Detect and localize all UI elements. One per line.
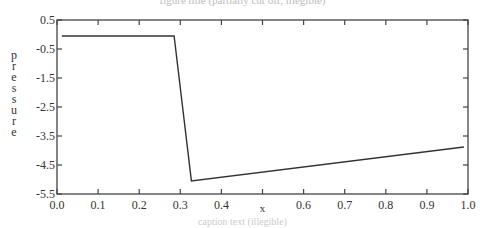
x-tick-label: 0.3 xyxy=(173,198,188,212)
y-tick-label: -2.5 xyxy=(36,100,55,114)
y-tick-label: -5.5 xyxy=(36,187,55,201)
plot-frame xyxy=(57,20,468,194)
y-tick-label: -4.5 xyxy=(36,158,55,172)
x-axis-label: x xyxy=(260,202,266,214)
data-series xyxy=(62,36,464,181)
axes xyxy=(57,20,468,194)
x-tick-label: 1.0 xyxy=(461,198,476,212)
figure-caption: caption text (illegible) xyxy=(0,216,485,227)
pressure-line xyxy=(62,36,464,181)
x-tick-label: 0.4 xyxy=(214,198,229,212)
x-tick-label: 0.7 xyxy=(337,198,352,212)
line-chart: 0.00.10.20.30.4x0.60.70.80.91.0 0.5-0.5-… xyxy=(0,0,485,228)
x-tick-label: 0.2 xyxy=(132,198,147,212)
y-tick-label: 0.5 xyxy=(40,13,55,27)
y-tick-label: -1.5 xyxy=(36,71,55,85)
y-tick-label: -0.5 xyxy=(36,42,55,56)
x-axis-ticks: 0.00.10.20.30.4x0.60.70.80.91.0 xyxy=(50,20,476,214)
x-tick-label: 0.8 xyxy=(378,198,393,212)
x-tick-label: 0.1 xyxy=(91,198,106,212)
x-tick-label: 0.9 xyxy=(419,198,434,212)
y-tick-label: -3.5 xyxy=(36,129,55,143)
x-tick-label: 0.6 xyxy=(296,198,311,212)
